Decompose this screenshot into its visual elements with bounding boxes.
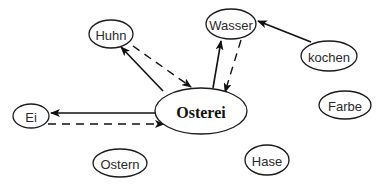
- node-huhn: Huhn: [89, 20, 133, 48]
- node-label-wasser: Wasser: [209, 18, 253, 33]
- node-label-ei: Ei: [25, 110, 37, 125]
- node-ostern: Ostern: [93, 149, 147, 177]
- node-hase: Hase: [245, 145, 289, 175]
- node-label-farbe: Farbe: [328, 99, 362, 114]
- edge-wasser-to-osterei-dashed: [225, 40, 241, 92]
- edge-huhn-to-osterei-dashed: [133, 46, 191, 87]
- node-kochen: kochen: [301, 41, 357, 71]
- node-ei: Ei: [13, 104, 49, 128]
- edge-osterei-to-huhn-solid: [121, 47, 163, 91]
- node-label-kochen: kochen: [308, 50, 350, 65]
- node-osterei: Osterei: [155, 88, 247, 134]
- node-wasser: Wasser: [206, 9, 256, 39]
- edge-kochen-to-wasser-solid: [258, 21, 311, 42]
- node-label-huhn: Huhn: [95, 28, 126, 43]
- edge-osterei-to-wasser-solid: [213, 41, 221, 88]
- node-label-ostern: Ostern: [100, 157, 139, 172]
- node-farbe: Farbe: [319, 91, 371, 119]
- node-label-hase: Hase: [252, 154, 282, 169]
- concept-map-diagram: HuhnWasserkochenOstereiEiFarbeOsternHase: [0, 0, 378, 188]
- node-label-osterei: Osterei: [176, 104, 226, 121]
- nodes-layer: HuhnWasserkochenOstereiEiFarbeOsternHase: [13, 9, 371, 177]
